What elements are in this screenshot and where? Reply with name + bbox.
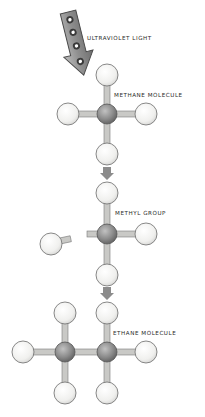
carbon-atom <box>97 104 117 124</box>
hydrogen-atom <box>96 302 118 324</box>
uv-light-arrow-icon <box>53 8 98 78</box>
uv-light-label: ULTRAVIOLET LIGHT <box>87 35 152 41</box>
hydrogen-atom <box>96 382 118 404</box>
hydrogen-atom <box>96 143 118 165</box>
methane-label: METHANE MOLECULE <box>114 92 183 98</box>
hydrogen-atom <box>57 103 79 125</box>
ethane-molecule <box>12 302 157 404</box>
methyl-group <box>87 182 157 286</box>
reaction-diagram: ULTRAVIOLET LIGHT METHANE MOLECULE METHY… <box>0 0 205 417</box>
down-arrow-icon <box>100 287 114 300</box>
methyl-label: METHYL GROUP <box>115 210 166 216</box>
carbon-atom <box>97 224 117 244</box>
hydrogen-atom <box>96 264 118 286</box>
hydrogen-atom <box>54 382 76 404</box>
hydrogen-atom <box>135 341 157 363</box>
methane-molecule <box>57 64 157 165</box>
free-hydrogen-atom <box>40 233 71 255</box>
hydrogen-atom <box>135 103 157 125</box>
hydrogen-atom <box>96 64 118 86</box>
hydrogen-atom <box>12 341 34 363</box>
carbon-atom <box>97 342 117 362</box>
ethane-label: ETHANE MOLECULE <box>113 330 176 336</box>
carbon-atom <box>55 342 75 362</box>
hydrogen-atom <box>96 182 118 204</box>
down-arrow-icon <box>100 167 114 180</box>
hydrogen-atom <box>135 223 157 245</box>
hydrogen-atom <box>54 302 76 324</box>
